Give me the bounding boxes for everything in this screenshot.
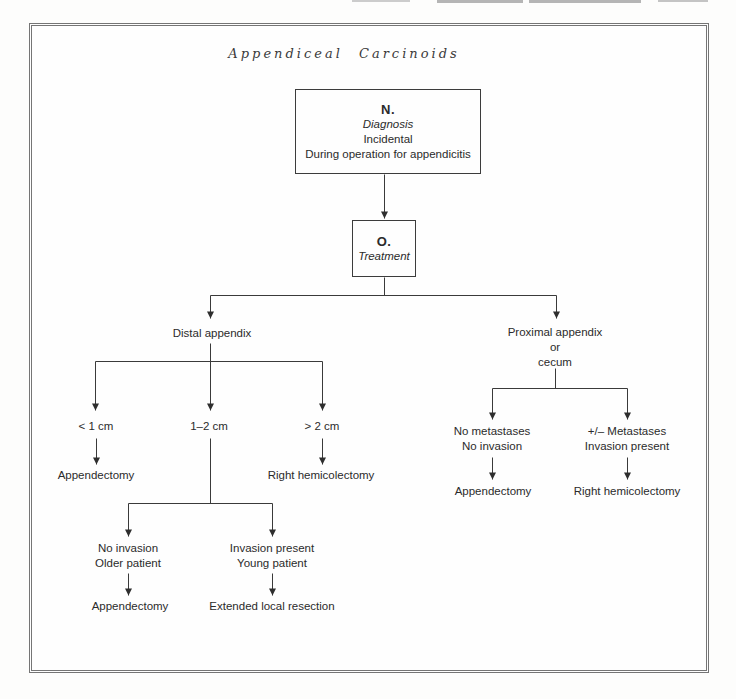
outcome-appendectomy: Appendectomy [58, 468, 135, 483]
condition-line: Invasion present [585, 439, 669, 454]
node-diagnosis-detail: During operation for appendicitis [296, 147, 480, 162]
condition-line: Young patient [230, 556, 314, 571]
condition-line: Invasion present [230, 541, 314, 556]
condition-no-invasion: No invasion Older patient [95, 541, 161, 571]
node-treatment: O. Treatment [352, 220, 416, 277]
size-1-2cm-label: 1–2 cm [190, 419, 228, 434]
node-diagnosis-detail: Incidental [296, 132, 480, 147]
branch-proximal-line: Proximal appendix [508, 325, 603, 340]
size-gt-2cm-label: > 2 cm [305, 419, 340, 434]
figure-canvas: Appendiceal Carcinoids [0, 0, 736, 699]
node-diagnosis-id: N. [296, 102, 480, 117]
outcome-extended-local-resection: Extended local resection [209, 599, 334, 614]
condition-no-metastases: No metastases No invasion [454, 424, 531, 454]
outcome-appendectomy: Appendectomy [92, 599, 169, 614]
node-treatment-id: O. [353, 234, 415, 249]
condition-line: +/– Metastases [585, 424, 669, 439]
condition-line: No invasion [95, 541, 161, 556]
size-lt-1cm-label: < 1 cm [79, 419, 114, 434]
node-diagnosis-role: Diagnosis [296, 117, 480, 132]
condition-line: No invasion [454, 439, 531, 454]
branch-distal-label: Distal appendix [173, 326, 252, 341]
condition-line: Older patient [95, 556, 161, 571]
outcome-right-hemicolectomy: Right hemicolectomy [574, 484, 681, 499]
condition-invasion-present: Invasion present Young patient [230, 541, 314, 571]
node-diagnosis: N. Diagnosis Incidental During operation… [295, 89, 481, 174]
node-treatment-role: Treatment [353, 249, 415, 264]
condition-metastases: +/– Metastases Invasion present [585, 424, 669, 454]
outcome-appendectomy: Appendectomy [455, 484, 532, 499]
condition-line: No metastases [454, 424, 531, 439]
outcome-right-hemicolectomy: Right hemicolectomy [268, 468, 375, 483]
branch-proximal-line: or [508, 340, 603, 355]
branch-proximal-label: Proximal appendix or cecum [508, 325, 603, 370]
branch-proximal-line: cecum [508, 355, 603, 370]
